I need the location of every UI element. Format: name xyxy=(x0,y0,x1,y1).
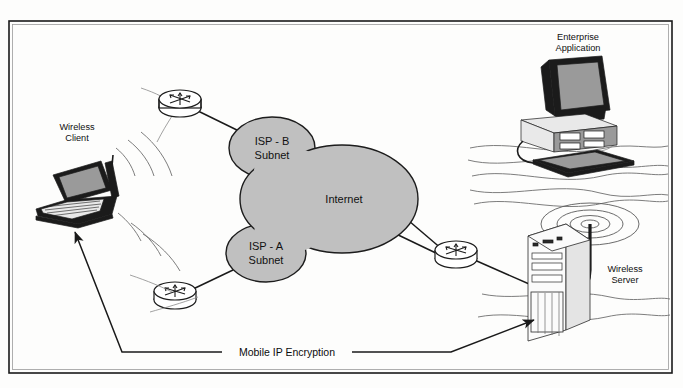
server-drive-bays xyxy=(532,253,562,282)
cloud-group: ISP - B Subnet Internet ISP - A Subnet xyxy=(226,117,418,282)
wireless-client-label: Wireless xyxy=(59,122,95,132)
router-top-left xyxy=(159,90,201,117)
crt-monitor-screen xyxy=(557,62,604,110)
wireless-server: Wireless Server xyxy=(528,203,643,341)
cloud-label-isp-b: ISP - B xyxy=(255,135,290,147)
cloud-label-isp-b-line2: Subnet xyxy=(255,149,290,161)
enterprise-application-label-line2: Application xyxy=(556,43,601,53)
router-right xyxy=(435,241,477,268)
wireless-client: Wireless Client xyxy=(36,122,180,271)
wireless-client-label-line2: Client xyxy=(65,133,89,143)
wireless-client-radio-waves xyxy=(116,132,180,271)
link-router-right-to-server xyxy=(470,258,536,287)
diagram-canvas: ISP - B Subnet Internet ISP - A Subnet xyxy=(0,0,683,388)
link-router-top-left-to-isp-b xyxy=(196,110,243,133)
router-bottom-left xyxy=(130,275,198,312)
cloud-label-internet: Internet xyxy=(325,193,362,205)
wireless-server-label: Wireless xyxy=(607,264,643,274)
cloud-label-isp-a-line2: Subnet xyxy=(249,254,284,266)
mobile-ip-encryption-label: Mobile IP Encryption xyxy=(239,346,335,358)
wireless-server-label-line2: Server xyxy=(611,275,638,285)
cloud-label-isp-a: ISP - A xyxy=(249,240,284,252)
enterprise-application: Enterprise Application xyxy=(518,32,634,177)
caption-arrow-right xyxy=(352,320,534,352)
enterprise-application-label: Enterprise xyxy=(557,32,599,42)
server-lower-vent xyxy=(531,292,563,332)
network-diagram: ISP - B Subnet Internet ISP - A Subnet xyxy=(0,0,683,388)
caption-arrow-left xyxy=(75,232,222,352)
router-top-left-guide-2 xyxy=(157,116,172,142)
link-router-bottom-left-to-isp-a xyxy=(191,270,233,290)
